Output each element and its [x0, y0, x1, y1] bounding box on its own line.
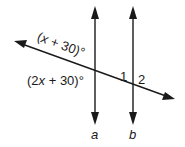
arrowhead-b-top	[129, 6, 137, 19]
transversal	[22, 44, 166, 96]
arrowhead-a-bottom	[91, 112, 99, 125]
line-label-b: b	[129, 128, 136, 141]
arrowhead-a-top	[91, 6, 99, 19]
arrowhead-transversal-right	[162, 92, 175, 100]
line-label-a: a	[91, 128, 98, 141]
angle-label-1: 1	[120, 70, 127, 83]
angle-label-2x-plus-30: (2x + 30)°	[27, 74, 84, 87]
angle-label-2: 2	[138, 73, 145, 86]
arrowhead-b-bottom	[129, 112, 137, 125]
arrowhead-transversal-left	[14, 40, 27, 48]
